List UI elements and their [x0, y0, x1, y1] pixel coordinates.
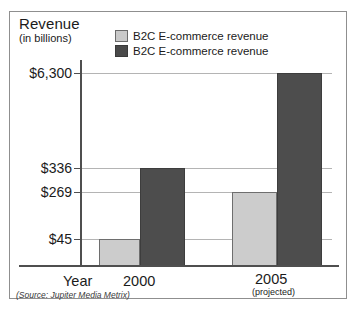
legend-swatch-light-gray-icon	[115, 30, 128, 42]
chart-title: Revenue (in billions)	[19, 16, 80, 44]
chart-title-subtitle: (in billions)	[19, 33, 80, 44]
x-axis-title: Year	[63, 274, 92, 289]
bar-2005-b2c-light	[232, 192, 277, 266]
legend-swatch-dark-gray-icon	[115, 45, 128, 57]
legend-item: B2C E-commerce revenue	[115, 44, 269, 58]
x-axis-line	[19, 265, 339, 267]
ytick-label-6300: $6,300	[29, 66, 72, 80]
bar-2000-b2c-dark	[140, 168, 185, 266]
ytick-label-269: $269	[41, 185, 72, 199]
legend-item: B2C E-commerce revenue	[115, 29, 269, 43]
source-note: (Source: Jupiter Media Metrix)	[16, 290, 130, 300]
x-tick-label-2000: 2000	[123, 274, 155, 289]
chart-figure: Revenue (in billions) B2C E-commerce rev…	[0, 0, 357, 317]
x-tick-label-2005: 2005	[255, 272, 287, 287]
chart-title-main: Revenue	[19, 16, 80, 31]
legend-item-label: B2C E-commerce revenue	[133, 30, 269, 42]
bar-2005-b2c-dark	[277, 73, 322, 266]
ytick-label-45: $45	[49, 232, 72, 246]
y-axis-line	[80, 60, 82, 266]
legend-item-label: B2C E-commerce revenue	[133, 45, 269, 57]
ytick-label-336: $336	[41, 161, 72, 175]
x-tick-sublabel-projected: (projected)	[252, 288, 295, 297]
chart-legend: B2C E-commerce revenue B2C E-commerce re…	[115, 29, 269, 59]
bar-2000-b2c-light	[99, 239, 140, 266]
